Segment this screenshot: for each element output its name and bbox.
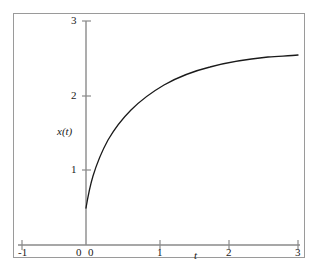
x-tick-label-2: 2	[226, 247, 232, 258]
origin-label: 0	[76, 247, 82, 258]
y-tick-label-1: 1	[71, 164, 77, 175]
y-tick-label-3: 3	[71, 15, 77, 26]
x-tick-label-minus1: -1	[18, 247, 27, 258]
data-curve	[86, 55, 298, 208]
x-axis-label: t	[194, 250, 197, 261]
y-axis-label: x(t)	[57, 126, 72, 137]
figure-container: 3 2 1 0 -1 0 1 2 3 x(t) t	[0, 0, 319, 272]
y-tick-label-2: 2	[71, 90, 77, 101]
x-tick-label-3: 3	[295, 247, 301, 258]
plot-canvas	[0, 0, 319, 272]
x-tick-label-0: 0	[88, 247, 94, 258]
x-tick-label-1: 1	[157, 247, 163, 258]
